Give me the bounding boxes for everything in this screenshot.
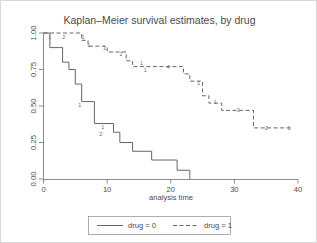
censor-count-labels: 11212111211411321 [48, 34, 290, 138]
censor-count-label: 4 [167, 64, 170, 70]
survival-curve-solid [44, 33, 190, 179]
censor-count-label: 1 [214, 99, 217, 105]
y-tick-label: 0.75 [29, 62, 38, 77]
x-axis-ticks: 010203040 [41, 180, 302, 195]
kaplan-meier-figure: Kaplan–Meier survival estimates, by drug… [0, 0, 317, 243]
censor-count-label: 1 [87, 42, 90, 48]
censor-count-label: 3 [237, 107, 240, 113]
x-tick-label: 10 [103, 185, 111, 194]
survival-curve-dashed [44, 33, 292, 128]
x-axis-title: analysis time [149, 193, 193, 202]
censor-count-label: 2 [99, 131, 102, 137]
y-tick-label: 1.00 [29, 26, 38, 41]
censor-count-label: 1 [48, 34, 51, 40]
censor-count-label: 1 [101, 124, 104, 130]
survival-plot-svg: Kaplan–Meier survival estimates, by drug… [1, 1, 317, 243]
censor-count-label: 1 [81, 34, 84, 40]
x-tick-label: 40 [294, 185, 302, 194]
censor-count-label: 2 [265, 125, 268, 131]
x-tick-label: 30 [230, 185, 238, 194]
censor-count-label: 1 [288, 125, 291, 131]
y-axis-ticks: 0.000.250.500.751.00 [29, 26, 44, 187]
x-tick-label: 0 [41, 185, 45, 194]
y-tick-label: 0.25 [29, 135, 38, 150]
censor-count-label: 1 [103, 45, 106, 51]
censor-count-label: 1 [197, 80, 200, 86]
legend-label: drug = 0 [128, 221, 156, 230]
y-tick-label: 0.50 [29, 99, 38, 114]
y-tick-label: 0.00 [29, 172, 38, 187]
censor-count-label: 2 [62, 34, 65, 40]
censor-count-label: 1 [144, 67, 147, 73]
censor-count-label: 2 [120, 51, 123, 57]
legend: drug = 0drug = 1 [89, 217, 233, 235]
censor-count-label: 1 [140, 60, 143, 66]
chart-title: Kaplan–Meier survival estimates, by drug [63, 14, 255, 26]
censor-count-label: 1 [78, 102, 81, 108]
legend-label: drug = 1 [204, 221, 232, 230]
